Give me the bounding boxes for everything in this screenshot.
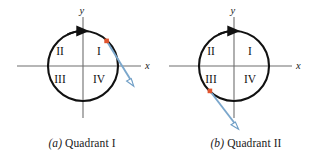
quadrant-label-ii: II bbox=[56, 45, 64, 57]
terminal-ray-arrowhead-icon bbox=[127, 79, 134, 87]
caption-quadrant-ii: (b) Quadrant II bbox=[164, 137, 328, 149]
quadrant-label-iii: III bbox=[54, 73, 66, 85]
quadrant-label-iii: III bbox=[205, 73, 217, 85]
caption-letter: (a) bbox=[48, 137, 62, 149]
x-axis-label: x bbox=[295, 60, 301, 71]
terminal-point-marker bbox=[104, 39, 109, 44]
quadrant-label-ii: II bbox=[207, 45, 215, 57]
caption-letter: (b) bbox=[210, 137, 224, 149]
figure-container: x y II I III IV (a) Quadrant I bbox=[0, 0, 328, 165]
terminal-ray-arrowhead-icon bbox=[231, 122, 239, 129]
diagram-quadrant-i: x y II I III IV bbox=[0, 0, 164, 138]
rotation-direction-arc-icon bbox=[68, 31, 84, 35]
x-axis-label: x bbox=[144, 60, 150, 71]
quadrant-label-iv: IV bbox=[93, 73, 106, 85]
quadrant-label-iv: IV bbox=[244, 73, 257, 85]
y-axis-label: y bbox=[79, 5, 85, 16]
terminal-ray-vector bbox=[210, 91, 236, 125]
terminal-point-marker bbox=[208, 89, 213, 94]
terminal-ray-vector bbox=[107, 42, 132, 83]
diagram-quadrant-ii: x y II I III IV bbox=[164, 0, 328, 138]
caption-text: Quadrant I bbox=[65, 137, 116, 149]
quadrant-label-i: I bbox=[97, 45, 101, 57]
rotation-direction-arc-icon bbox=[219, 31, 235, 35]
panel-quadrant-i: x y II I III IV (a) Quadrant I bbox=[0, 0, 164, 165]
caption-text: Quadrant II bbox=[227, 137, 281, 149]
y-axis-label: y bbox=[230, 5, 236, 16]
caption-quadrant-i: (a) Quadrant I bbox=[0, 137, 164, 149]
quadrant-label-i: I bbox=[248, 45, 252, 57]
panel-quadrant-ii: x y II I III IV (b) Quadrant II bbox=[164, 0, 328, 165]
